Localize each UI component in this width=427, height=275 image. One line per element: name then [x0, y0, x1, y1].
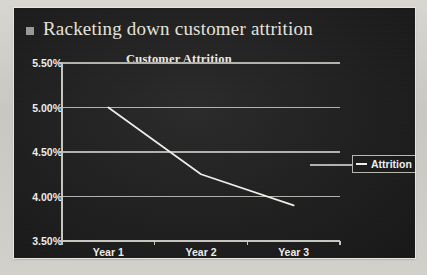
legend-line-swatch: [356, 163, 367, 165]
gridlines: [59, 63, 340, 241]
x-axis-tick-labels: Year 1Year 2Year 3: [62, 246, 354, 258]
square-bullet-icon: [26, 27, 34, 35]
x-axis-tick-label: Year 3: [278, 246, 309, 258]
slide-title: Racketing down customer attrition: [26, 18, 313, 40]
x-axis-tick-label: Year 1: [93, 246, 124, 258]
plot-area: 5.50%5.00%4.50%4.00%3.50% Year 1Year 2Ye…: [14, 46, 415, 258]
chart-plot-svg: [14, 46, 415, 258]
chart-legend: Attrition: [352, 155, 415, 173]
chart-container: Customer Attrition 5.50%5.00%4.50%4.00%3…: [14, 46, 415, 258]
presentation-slide: Racketing down customer attrition Custom…: [14, 8, 415, 258]
x-axis-tick-marks: [62, 241, 340, 245]
slide-title-text: Racketing down customer attrition: [43, 18, 313, 40]
legend-label: Attrition: [371, 158, 412, 170]
slide-page-background: Racketing down customer attrition Custom…: [0, 0, 427, 275]
x-axis-tick-label: Year 2: [186, 246, 217, 258]
series-attrition-line: [108, 108, 293, 206]
